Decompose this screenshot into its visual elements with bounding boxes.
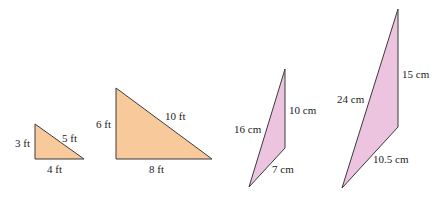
triangles-svg: 3 ft 5 ft 4 ft 6 ft 10 ft 8 ft 10 cm 16 … <box>0 0 435 200</box>
triangle-large-right: 6 ft 10 ft 8 ft <box>96 88 212 175</box>
side-label-right: 15 cm <box>402 68 430 80</box>
side-label-left: 24 cm <box>337 93 365 105</box>
triangle-small-obtuse: 10 cm 16 cm 7 cm <box>234 69 317 187</box>
side-label-hypotenuse: 10 ft <box>165 110 185 122</box>
side-label-left: 16 cm <box>234 123 262 135</box>
triangle-large-obtuse: 15 cm 24 cm 10.5 cm <box>337 9 430 188</box>
side-label-left: 6 ft <box>96 118 111 130</box>
side-label-bottom: 10.5 cm <box>373 153 409 165</box>
side-label-bottom: 8 ft <box>149 163 164 175</box>
similar-triangles-figure: 3 ft 5 ft 4 ft 6 ft 10 ft 8 ft 10 cm 16 … <box>0 0 435 200</box>
side-label-bottom: 4 ft <box>47 163 62 175</box>
side-label-right: 10 cm <box>289 104 317 116</box>
triangle-small-right: 3 ft 5 ft 4 ft <box>15 124 84 175</box>
side-label-bottom: 7 cm <box>272 163 294 175</box>
side-label-left: 3 ft <box>15 137 30 149</box>
side-label-hypotenuse: 5 ft <box>62 132 77 144</box>
triangle-shape <box>116 88 212 159</box>
